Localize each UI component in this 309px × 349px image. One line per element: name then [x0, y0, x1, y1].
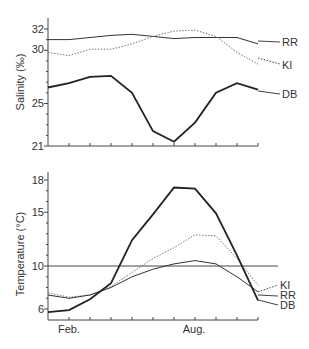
- temperature-axis-title: Temperature (°C): [14, 212, 26, 296]
- legend-DB-temperature: DB: [280, 299, 295, 311]
- tick-label-6: 6: [38, 303, 44, 315]
- legend-KI-salinity: KI: [282, 59, 292, 71]
- leader-RR-t: [258, 295, 278, 296]
- tick-label-21: 21: [32, 140, 44, 152]
- chart-canvas: 32 30 25 21 Salinity (‰) RR KI DB 18 15 …: [0, 0, 309, 349]
- legend-RR-salinity: RR: [282, 36, 298, 48]
- salinity-axis-title: Salinity (‰): [14, 54, 26, 111]
- x-label-feb: Feb.: [58, 323, 80, 335]
- leader-DB-t: [258, 300, 278, 305]
- tick-label-32: 32: [32, 23, 44, 35]
- x-label-aug: Aug.: [183, 323, 206, 335]
- tick-label-15: 15: [32, 206, 44, 218]
- series-KI-salinity: [48, 30, 258, 64]
- series-DB-salinity: [48, 76, 258, 142]
- salinity-y-ticks: [44, 29, 48, 146]
- legend-DB-salinity: DB: [282, 88, 297, 100]
- leader-KI: [258, 58, 280, 64]
- series-RR-salinity: [48, 34, 258, 44]
- series-DB-temperature: [48, 188, 258, 313]
- tick-label-18: 18: [32, 174, 44, 186]
- leader-KI-t: [258, 285, 278, 292]
- salinity-panel: 32 30 25 21 Salinity (‰) RR KI DB: [14, 18, 298, 152]
- tick-label-10: 10: [32, 260, 44, 272]
- leader-DB: [258, 91, 280, 94]
- leader-RR: [258, 41, 280, 42]
- temperature-y-ticks: [44, 180, 48, 309]
- temperature-panel: 18 15 10 6 Temperature (°C) Feb. Aug. KI…: [14, 172, 296, 335]
- tick-label-25: 25: [32, 97, 44, 109]
- tick-label-30: 30: [32, 43, 44, 55]
